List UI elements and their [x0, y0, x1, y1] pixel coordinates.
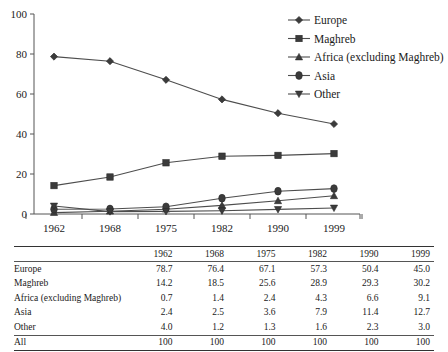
legend-item-europe[interactable]: Europe — [288, 14, 347, 27]
y-tick-label-80: 80 — [16, 48, 28, 60]
legend-marker-diamond-icon — [295, 16, 302, 23]
cell-1962: 4.0 — [125, 320, 176, 335]
x-tick-label-1968: 1968 — [99, 222, 122, 234]
total-cell-1962: 100 — [125, 335, 176, 350]
data-table-region: 196219681975198219901999Europe78.776.467… — [14, 246, 434, 352]
cell-1982: 4.3 — [280, 291, 331, 305]
cell-1990: 2.3 — [331, 320, 382, 335]
data-point-marker — [274, 110, 281, 117]
series-line — [54, 154, 334, 186]
y-tick-label-40: 40 — [16, 128, 28, 140]
y-tick-label-20: 20 — [16, 168, 28, 180]
legend-marker-square-icon — [296, 35, 302, 41]
legend-item-asia[interactable]: Asia — [288, 70, 335, 82]
x-tick-label-1990: 1990 — [267, 222, 290, 234]
data-point-marker — [275, 152, 281, 158]
cell-1990: 6.6 — [331, 291, 382, 305]
cell-1962: 78.7 — [125, 262, 176, 277]
chart-region: 020406080100196219681975198219901999Euro… — [0, 0, 448, 244]
cell-1990: 29.3 — [331, 277, 382, 291]
cell-1968: 18.5 — [177, 277, 228, 291]
data-point-marker — [330, 192, 337, 198]
series-europe — [50, 53, 337, 128]
data-point-marker — [107, 174, 113, 180]
data-point-marker — [51, 182, 57, 188]
cell-1982: 57.3 — [280, 262, 331, 277]
cell-1962: 0.7 — [125, 291, 176, 305]
cell-1975: 3.6 — [228, 306, 279, 320]
data-point-marker — [331, 150, 337, 156]
cell-1968: 76.4 — [177, 262, 228, 277]
cell-1999: 9.1 — [383, 291, 434, 305]
data-point-marker — [50, 53, 57, 60]
row-label: Europe — [14, 262, 125, 277]
total-cell-1982: 100 — [280, 335, 331, 350]
column-header-1968: 1968 — [177, 247, 228, 262]
legend-label: Europe — [314, 14, 347, 27]
table-total-row: All100100100100100100 — [14, 335, 434, 350]
cell-1999: 12.7 — [383, 306, 434, 320]
row-label-total: All — [14, 335, 125, 350]
table-row: Europe78.776.467.157.350.445.0 — [14, 262, 434, 277]
cell-1999: 30.2 — [383, 277, 434, 291]
data-point-marker — [218, 96, 225, 103]
cell-1968: 1.4 — [177, 291, 228, 305]
x-tick-label-1982: 1982 — [211, 222, 233, 234]
cell-1975: 25.6 — [228, 277, 279, 291]
data-point-marker — [219, 153, 225, 159]
data-point-marker — [330, 120, 337, 127]
cell-1982: 1.6 — [280, 320, 331, 335]
series-line — [54, 57, 334, 124]
x-tick-label-1975: 1975 — [155, 222, 178, 234]
data-point-marker — [163, 160, 169, 166]
cell-1962: 2.4 — [125, 306, 176, 320]
table-header-row: 196219681975198219901999 — [14, 247, 434, 262]
legend-label: Africa (excluding Maghreb) — [314, 51, 444, 64]
legend-item-maghreb[interactable]: Maghreb — [288, 33, 356, 46]
cell-1975: 1.3 — [228, 320, 279, 335]
data-point-marker — [275, 187, 282, 195]
cell-1982: 28.9 — [280, 277, 331, 291]
legend-item-africa-excluding-maghreb[interactable]: Africa (excluding Maghreb) — [288, 51, 444, 64]
series-maghreb — [51, 150, 337, 188]
cell-1975: 67.1 — [228, 262, 279, 277]
total-cell-1999: 100 — [383, 335, 434, 350]
cell-1962: 14.2 — [125, 277, 176, 291]
statistics-table: 196219681975198219901999Europe78.776.467… — [14, 246, 434, 352]
cell-1968: 2.5 — [177, 306, 228, 320]
table-row: Maghreb14.218.525.628.929.330.2 — [14, 277, 434, 291]
table-corner-cell — [14, 247, 125, 262]
legend-item-other[interactable]: Other — [288, 88, 340, 100]
data-point-marker — [219, 194, 226, 202]
row-label: Maghreb — [14, 277, 125, 291]
legend-label: Asia — [314, 70, 335, 82]
x-tick-label-1962: 1962 — [43, 222, 65, 234]
cell-1982: 7.9 — [280, 306, 331, 320]
legend-label: Maghreb — [314, 33, 356, 46]
cell-1999: 3.0 — [383, 320, 434, 335]
y-tick-label-100: 100 — [11, 8, 28, 20]
cell-1990: 11.4 — [331, 306, 382, 320]
cell-1990: 50.4 — [331, 262, 382, 277]
row-label: Other — [14, 320, 125, 335]
table-row: Africa (excluding Maghreb)0.71.42.44.36.… — [14, 291, 434, 305]
column-header-1975: 1975 — [228, 247, 279, 262]
legend-marker-circle-icon — [296, 72, 303, 80]
cell-1968: 1.2 — [177, 320, 228, 335]
column-header-1999: 1999 — [383, 247, 434, 262]
series-africa-excluding-maghreb — [50, 192, 337, 215]
total-cell-1990: 100 — [331, 335, 382, 350]
row-label: Africa (excluding Maghreb) — [14, 291, 125, 305]
data-point-marker — [106, 58, 113, 65]
cell-1999: 45.0 — [383, 262, 434, 277]
line-chart: 020406080100196219681975198219901999Euro… — [0, 0, 448, 244]
x-tick-label-1999: 1999 — [323, 222, 346, 234]
cell-1975: 2.4 — [228, 291, 279, 305]
table-row: Other4.01.21.31.62.33.0 — [14, 320, 434, 335]
row-label: Asia — [14, 306, 125, 320]
data-point-marker — [162, 76, 169, 83]
total-cell-1975: 100 — [228, 335, 279, 350]
series-line — [54, 189, 334, 210]
column-header-1982: 1982 — [280, 247, 331, 262]
column-header-1990: 1990 — [331, 247, 382, 262]
